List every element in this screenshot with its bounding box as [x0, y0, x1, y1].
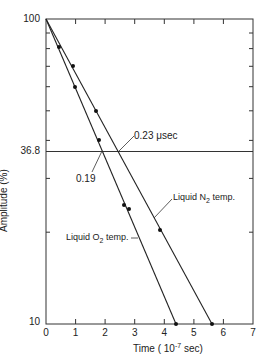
plot-frame	[46, 19, 253, 324]
y-tick-100: 100	[2, 14, 40, 24]
x-tick-0: 0	[43, 328, 49, 338]
series-line-o2	[46, 19, 176, 324]
annotation-023-usec: 0.23 μsec	[134, 131, 178, 141]
x-tick-2: 2	[102, 328, 108, 338]
x-tick-3: 3	[132, 328, 138, 338]
x-axis-title: Time ( 10-7 sec)	[133, 342, 203, 354]
x-tick-1: 1	[73, 328, 79, 338]
label-liquid-n2: Liquid N2 temp.	[173, 193, 235, 204]
x-tick-5: 5	[191, 328, 197, 338]
x-ticks	[76, 19, 224, 324]
annotation-019: 0.19	[76, 174, 95, 184]
chart-canvas	[0, 0, 268, 364]
x-tick-4: 4	[162, 328, 168, 338]
x-tick-6: 6	[221, 328, 227, 338]
label-liquid-o2: Liquid O2 temp.	[66, 233, 128, 244]
y-tick-368: 36.8	[2, 146, 40, 156]
series-line-n2	[46, 19, 212, 324]
x-tick-7: 7	[250, 328, 256, 338]
y-tick-10: 10	[2, 317, 40, 327]
y-axis-title: Amplitude (%)	[0, 169, 9, 232]
